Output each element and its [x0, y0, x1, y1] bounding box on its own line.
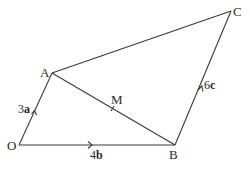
vector-label-OB: 4b [90, 148, 103, 162]
segment-AB [52, 73, 175, 145]
point-label-A: A [40, 65, 50, 80]
segment-BC [175, 11, 231, 145]
point-label-O: O [7, 138, 16, 153]
segment-AC [52, 11, 231, 73]
vector-diagram: O A B C M 3a 4b 6c [0, 0, 250, 172]
point-label-B: B [169, 147, 178, 162]
point-label-M: M [111, 92, 123, 107]
vector-label-OA: 3a [18, 102, 30, 116]
point-label-C: C [233, 4, 242, 19]
vector-label-BC: 6c [204, 78, 216, 92]
